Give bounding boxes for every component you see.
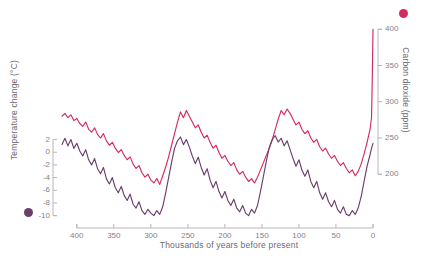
tick-x-300: 300	[136, 231, 166, 240]
tick-left--8: -8	[28, 198, 50, 207]
tick-x-150: 150	[247, 231, 277, 240]
tick-right-300: 300	[385, 97, 411, 106]
tick-left-2: 2	[28, 135, 50, 144]
tick-left--6: -6	[28, 185, 50, 194]
tick-x-0: 0	[358, 231, 388, 240]
tick-x-350: 350	[99, 231, 129, 240]
chart-container: Temperature change (°C) Carbon dioxide (…	[0, 0, 428, 262]
tick-x-100: 100	[284, 231, 314, 240]
axis-lines	[53, 29, 382, 228]
tick-right-400: 400	[385, 24, 411, 33]
co2-line	[62, 29, 373, 184]
tick-right-350: 350	[385, 61, 411, 70]
tick-left-0: 0	[28, 147, 50, 156]
tick-x-200: 200	[210, 231, 240, 240]
tick-x-250: 250	[173, 231, 203, 240]
tick-left--10: -10	[28, 211, 50, 220]
tick-marks	[53, 29, 382, 228]
tick-right-250: 250	[385, 133, 411, 142]
tick-left--4: -4	[28, 173, 50, 182]
chart-plot	[0, 0, 428, 262]
tick-x-400: 400	[62, 231, 92, 240]
tick-right-200: 200	[385, 169, 411, 178]
tick-x-50: 50	[321, 231, 351, 240]
tick-left--2: -2	[28, 160, 50, 169]
